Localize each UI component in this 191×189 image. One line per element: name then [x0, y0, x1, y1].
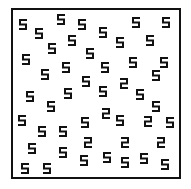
digit-5-glyph	[47, 101, 55, 112]
digit-5-glyph	[99, 86, 107, 97]
digit-5-glyph	[18, 115, 26, 126]
digit-5-glyph	[86, 48, 94, 59]
digit-5-glyph	[162, 17, 170, 28]
digit-5-glyph	[81, 117, 89, 128]
digit-5-glyph	[116, 37, 124, 48]
digit-5-glyph	[136, 89, 144, 100]
digit-5-glyph	[140, 153, 148, 164]
digit-5-glyph	[80, 155, 88, 166]
digit-5-glyph	[152, 101, 160, 112]
digit-5-glyph	[78, 19, 86, 30]
digit-5-glyph	[22, 54, 30, 65]
digit-2-glyph	[120, 78, 128, 89]
digit-5-glyph	[161, 159, 169, 170]
digit-5-glyph	[132, 17, 140, 28]
digit-5-glyph	[28, 143, 36, 154]
digit-5-glyph	[57, 14, 65, 25]
digit-2-glyph	[157, 137, 165, 148]
digit-5-glyph	[68, 35, 76, 46]
digit-5-glyph	[59, 126, 67, 137]
digit-5-glyph	[62, 62, 70, 73]
digit-5-glyph	[82, 76, 90, 87]
digit-5-glyph	[101, 62, 109, 73]
digit-5-glyph	[41, 69, 49, 80]
digit-5-glyph	[166, 117, 174, 128]
digit-2-glyph	[102, 108, 110, 119]
digit-5-glyph	[121, 157, 129, 168]
digit-2-glyph	[84, 137, 92, 148]
digit-5-glyph	[116, 115, 124, 126]
digit-2-glyph	[144, 116, 152, 127]
digit-5-glyph	[146, 35, 154, 46]
digit-5-glyph	[21, 163, 29, 174]
digit-5-glyph	[160, 57, 168, 68]
digit-5-glyph	[64, 88, 72, 99]
digit-5-glyph	[59, 147, 67, 158]
digit-5-glyph	[43, 163, 51, 174]
digit-5-glyph	[48, 43, 56, 54]
digit-5-glyph	[35, 28, 43, 39]
glyph-field	[0, 0, 191, 189]
digit-5-glyph	[129, 57, 137, 68]
digit-2-glyph	[121, 137, 129, 148]
digit-5-glyph	[103, 152, 111, 163]
digit-5-glyph	[19, 19, 27, 30]
digit-5-glyph	[152, 70, 160, 81]
digit-5-glyph	[38, 126, 46, 137]
digit-5-glyph	[99, 27, 107, 38]
digit-5-glyph	[26, 91, 34, 102]
